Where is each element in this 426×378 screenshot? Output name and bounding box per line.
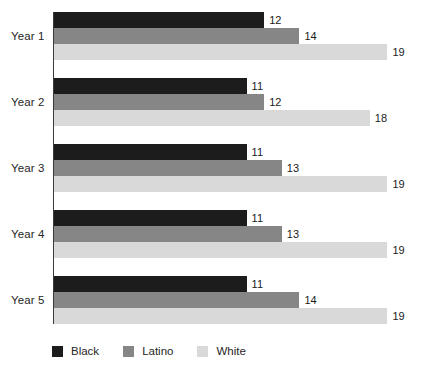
value-label: 13 bbox=[287, 228, 299, 240]
bar-white-year-2 bbox=[53, 110, 370, 126]
bar-row: 14 bbox=[53, 292, 405, 308]
bar-latino-year-4 bbox=[53, 226, 282, 242]
category-label: Year 5 bbox=[0, 276, 53, 324]
legend-label: Black bbox=[71, 345, 99, 357]
bar-row: 11 bbox=[53, 78, 387, 94]
chart-group-year-3: Year 3111319 bbox=[0, 144, 426, 192]
bar-latino-year-2 bbox=[53, 94, 264, 110]
chart-group-year-4: Year 4111319 bbox=[0, 210, 426, 258]
chart-groups: Year 1121419Year 2111218Year 3111319Year… bbox=[0, 12, 426, 324]
bar-black-year-2 bbox=[53, 78, 247, 94]
legend-swatch-latino bbox=[123, 346, 134, 357]
legend-item-latino: Latino bbox=[123, 345, 173, 357]
legend: BlackLatinoWhite bbox=[52, 345, 426, 357]
bar-stack: 111419 bbox=[53, 276, 405, 324]
bar-chart: Year 1121419Year 2111218Year 3111319Year… bbox=[0, 0, 426, 378]
bar-row: 11 bbox=[53, 144, 405, 160]
value-label: 19 bbox=[392, 244, 404, 256]
bar-row: 19 bbox=[53, 242, 405, 258]
legend-label: White bbox=[216, 345, 245, 357]
value-label: 11 bbox=[252, 80, 263, 92]
value-label: 12 bbox=[269, 14, 281, 26]
bar-latino-year-5 bbox=[53, 292, 299, 308]
category-label: Year 2 bbox=[0, 78, 53, 126]
bar-row: 14 bbox=[53, 28, 405, 44]
value-label: 14 bbox=[304, 294, 316, 306]
bar-black-year-5 bbox=[53, 276, 247, 292]
category-label: Year 4 bbox=[0, 210, 53, 258]
bar-row: 11 bbox=[53, 276, 405, 292]
value-label: 12 bbox=[269, 96, 281, 108]
bar-stack: 121419 bbox=[53, 12, 405, 60]
value-label: 14 bbox=[304, 30, 316, 42]
bar-row: 11 bbox=[53, 210, 405, 226]
bar-row: 13 bbox=[53, 160, 405, 176]
value-label: 19 bbox=[392, 46, 404, 58]
bar-white-year-1 bbox=[53, 44, 387, 60]
bar-black-year-4 bbox=[53, 210, 247, 226]
y-axis-line bbox=[53, 12, 54, 324]
chart-group-year-1: Year 1121419 bbox=[0, 12, 426, 60]
bar-row: 12 bbox=[53, 12, 405, 28]
bar-stack: 111319 bbox=[53, 210, 405, 258]
bar-white-year-5 bbox=[53, 308, 387, 324]
bar-black-year-3 bbox=[53, 144, 247, 160]
legend-swatch-black bbox=[52, 346, 63, 357]
legend-item-white: White bbox=[197, 345, 245, 357]
value-label: 18 bbox=[375, 112, 387, 124]
legend-item-black: Black bbox=[52, 345, 99, 357]
bar-black-year-1 bbox=[53, 12, 264, 28]
legend-swatch-white bbox=[197, 346, 208, 357]
plot-area: Year 1121419Year 2111218Year 3111319Year… bbox=[0, 0, 426, 324]
bar-latino-year-3 bbox=[53, 160, 282, 176]
bar-white-year-3 bbox=[53, 176, 387, 192]
bar-stack: 111319 bbox=[53, 144, 405, 192]
category-label: Year 3 bbox=[0, 144, 53, 192]
legend-label: Latino bbox=[142, 345, 173, 357]
chart-group-year-5: Year 5111419 bbox=[0, 276, 426, 324]
bar-row: 19 bbox=[53, 176, 405, 192]
category-label: Year 1 bbox=[0, 12, 53, 60]
value-label: 11 bbox=[252, 278, 263, 290]
value-label: 11 bbox=[252, 146, 263, 158]
value-label: 13 bbox=[287, 162, 299, 174]
value-label: 19 bbox=[392, 178, 404, 190]
bar-row: 18 bbox=[53, 110, 387, 126]
bar-row: 13 bbox=[53, 226, 405, 242]
bar-latino-year-1 bbox=[53, 28, 299, 44]
bar-stack: 111218 bbox=[53, 78, 387, 126]
bar-white-year-4 bbox=[53, 242, 387, 258]
value-label: 19 bbox=[392, 310, 404, 322]
chart-group-year-2: Year 2111218 bbox=[0, 78, 426, 126]
bar-row: 19 bbox=[53, 44, 405, 60]
bar-row: 19 bbox=[53, 308, 405, 324]
bar-row: 12 bbox=[53, 94, 387, 110]
value-label: 11 bbox=[252, 212, 263, 224]
